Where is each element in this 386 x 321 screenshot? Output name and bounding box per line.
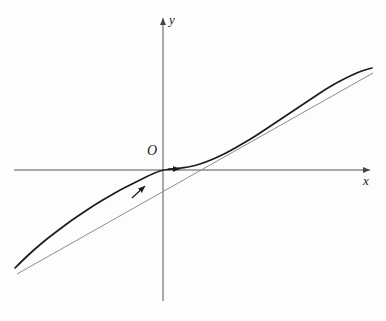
graph-canvas (0, 0, 386, 321)
asymptote-line (17, 73, 373, 274)
y-axis-label: y (169, 12, 175, 28)
x-axis-label: x (363, 173, 369, 189)
figure-container: y x O (0, 0, 386, 321)
direction-arrow-upleft-icon (132, 186, 145, 198)
origin-label: O (147, 143, 157, 159)
curve-path (15, 68, 372, 268)
direction-arrow-right-icon (168, 169, 180, 170)
